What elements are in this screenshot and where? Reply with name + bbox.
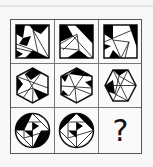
cell-r1c2-square-figure bbox=[55, 20, 98, 63]
cell-r1c3-square-figure bbox=[99, 20, 142, 63]
question-mark: ? bbox=[99, 108, 142, 153]
cell-r3c2-circle-figure bbox=[55, 108, 98, 153]
puzzle-grid: ? bbox=[10, 19, 142, 154]
cell-r1c1-square-figure bbox=[11, 20, 54, 63]
cell-r3c3-answer-placeholder: ? bbox=[99, 108, 142, 153]
cell-r3c1-circle-figure bbox=[11, 108, 54, 153]
cell-r2c3-hexagon-figure bbox=[99, 64, 142, 107]
cell-r2c2-hexagon-figure bbox=[55, 64, 98, 107]
cell-r2c1-hexagon-figure bbox=[11, 64, 54, 107]
top-divider bbox=[0, 5, 153, 7]
